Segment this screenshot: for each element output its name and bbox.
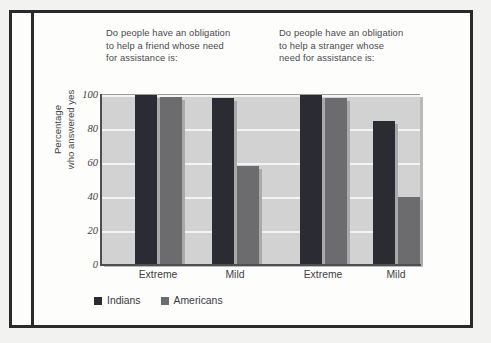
x-label-3: Mild [386,269,405,280]
x-axis-line [100,264,421,266]
bar-americans-2 [325,98,347,265]
bar-shadow [347,101,350,265]
y-tick-label-0: 0 [64,259,98,270]
legend-item-americans: Americans [161,295,223,306]
bar-body [212,98,234,265]
chart-figure: Do people have an obligation to help a f… [34,13,470,325]
bar-americans-3 [398,197,420,265]
bar-body [325,98,347,265]
group-heading-stranger: Do people have an obligation to help a s… [279,27,404,65]
bar-body [300,95,322,265]
bar-body [160,97,182,265]
y-axis-tick-labels: 100806040200 [60,94,98,264]
bar-indians-3 [373,121,395,266]
bar-americans-1 [237,166,259,265]
y-tick-label-100: 100 [64,89,98,100]
group-heading-friend: Do people have an obligation to help a f… [106,27,231,65]
bar-body [373,121,395,266]
bar-shadow [182,100,185,265]
bar-body [135,95,157,265]
x-label-1: Mild [225,269,244,280]
bar-indians-2 [300,95,322,265]
bar-body [237,166,259,265]
legend-swatch-americans [161,297,169,305]
bar-americans-0 [160,97,182,265]
y-tick-label-40: 40 [64,191,98,202]
x-label-0: Extreme [139,269,178,280]
bar-shadow [259,169,262,265]
plot-area [101,94,420,265]
x-label-2: Extreme [304,269,343,280]
plot-gridlines-and-bars [101,95,420,265]
figure-page: Do people have an obligation to help a f… [0,0,491,343]
legend-label-americans: Americans [174,295,223,306]
legend-label-indians: Indians [107,295,141,306]
y-tick-label-60: 60 [64,157,98,168]
bar-indians-0 [135,95,157,265]
legend-swatch-indians [94,297,102,305]
y-tick-label-20: 20 [64,225,98,236]
legend-item-indians: Indians [94,295,141,306]
y-axis-line [100,94,102,265]
bar-shadow [420,200,423,265]
y-tick-label-80: 80 [64,123,98,134]
x-axis-category-labels: ExtremeMildExtremeMild [101,269,420,287]
bar-indians-1 [212,98,234,265]
bar-body [398,197,420,265]
chart-legend: IndiansAmericans [94,295,223,306]
